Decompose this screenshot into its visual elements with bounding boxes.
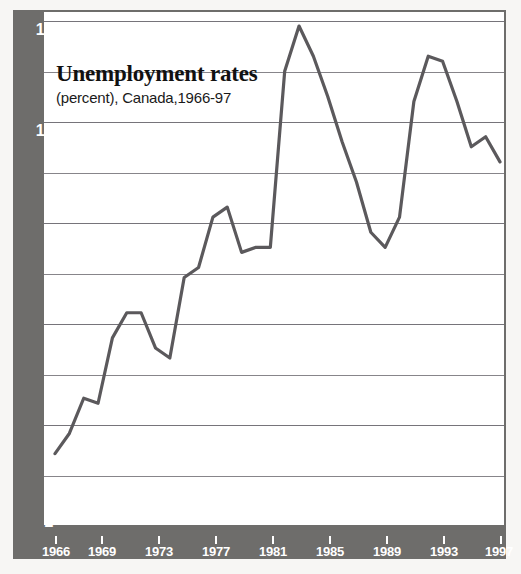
x-tick-label-1966: 1966 — [33, 544, 79, 559]
x-tick-label-1989: 1989 — [364, 544, 410, 559]
x-tick-mark-1993 — [443, 536, 445, 544]
x-tick-mark-1997 — [500, 536, 502, 544]
x-tick-mark-1973 — [158, 536, 160, 544]
x-tick-label-1969: 1969 — [79, 544, 125, 559]
title-block: Unemployment rates (percent), Canada,196… — [56, 62, 316, 106]
x-tick-label-1977: 1977 — [193, 544, 239, 559]
x-tick-label-1993: 1993 — [421, 544, 467, 559]
plot-right-border — [504, 12, 506, 525]
x-tick-mark-1966 — [55, 536, 57, 544]
x-tick-mark-1985 — [329, 536, 331, 544]
x-tick-mark-1981 — [272, 536, 274, 544]
x-tick-mark-1969 — [101, 536, 103, 544]
x-tick-mark-1989 — [386, 536, 388, 544]
x-tick-label-1997: 1997 — [476, 544, 521, 559]
x-tick-label-1981: 1981 — [250, 544, 296, 559]
page-title: Unemployment rates — [56, 62, 316, 86]
x-tick-label-1973: 1973 — [136, 544, 182, 559]
chart-subtitle: (percent), Canada,1966-97 — [56, 89, 316, 106]
x-tick-mark-1977 — [215, 536, 217, 544]
x-tick-label-1985: 1985 — [307, 544, 353, 559]
chart-figure: 12 10 8 6 4 2 1966 1969 1973 1977 1981 1… — [0, 0, 521, 574]
